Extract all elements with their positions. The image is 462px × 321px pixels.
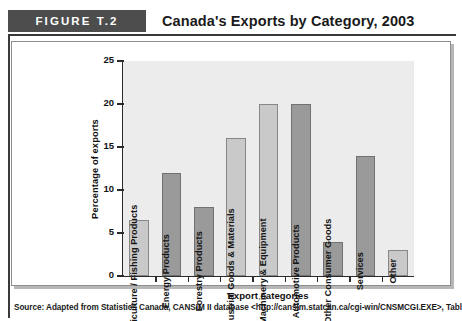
y-axis-tick-label: 20 — [103, 97, 114, 108]
figure-header: FIGURE T.2 Canada's Exports by Category,… — [8, 8, 454, 34]
x-axis-title: Export categories — [122, 290, 414, 301]
figure-title: Canada's Exports by Category, 2003 — [162, 9, 414, 33]
bar: Services — [356, 156, 375, 276]
y-axis-tick-label: 0 — [109, 269, 114, 280]
source-note: Source: Adapted from Statistics Canada, … — [14, 303, 454, 312]
figure-number-badge: FIGURE T.2 — [8, 10, 146, 32]
figure-container: FIGURE T.2 Canada's Exports by Category,… — [0, 0, 462, 321]
bar-category-label: Services — [356, 252, 365, 290]
x-axis-tick-mark — [382, 276, 383, 282]
bar: Automotive Products — [291, 104, 310, 276]
left-border-rule — [8, 36, 10, 318]
x-axis-tick-mark — [188, 276, 189, 282]
bars-layer: Agriculture / Fishing ProductsEnergy Pro… — [123, 61, 414, 276]
bar-category-label: Other — [389, 259, 398, 284]
x-axis-tick-mark — [252, 276, 253, 282]
y-axis-tick-label: 5 — [109, 226, 114, 237]
x-axis-tick-mark — [349, 276, 350, 282]
y-axis-tick-label: 10 — [103, 183, 114, 194]
y-axis-tick-label: 15 — [103, 140, 114, 151]
x-axis-tick-mark — [155, 276, 156, 282]
bar: Forestry Products — [194, 207, 213, 276]
x-axis-tick-mark — [285, 276, 286, 282]
y-axis-tick-label: 25 — [103, 54, 114, 65]
bar: Machinery & Equipment — [259, 104, 278, 276]
y-axis-title: Percentage of exports — [88, 61, 102, 277]
header-divider — [8, 34, 456, 36]
x-axis-tick-mark — [317, 276, 318, 282]
plot-area: 0510152025 Agriculture / Fishing Product… — [122, 61, 414, 277]
bar: Industrial Goods & Materials — [226, 138, 245, 276]
bar: Energy Products — [162, 173, 181, 276]
bar: Other — [388, 250, 407, 276]
x-axis-tick-mark — [220, 276, 221, 282]
bar: Other Consumer Goods — [323, 242, 342, 276]
bar: Agriculture / Fishing Products — [129, 220, 148, 276]
